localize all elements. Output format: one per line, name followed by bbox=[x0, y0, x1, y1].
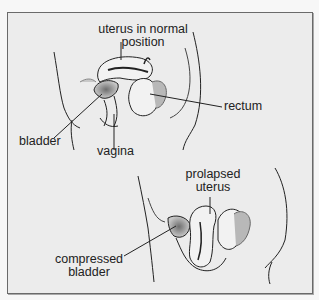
label-rectum: rectum bbox=[224, 100, 262, 113]
label-prolapsed-uterus: prolapsed uterus bbox=[180, 168, 246, 194]
label-compressed-bladder: compressed bladder bbox=[54, 253, 124, 279]
label-uterus-normal: uterus in normal position bbox=[83, 23, 203, 49]
label-bladder: bladder bbox=[19, 135, 61, 148]
label-vagina: vagina bbox=[97, 145, 134, 158]
normal-anatomy-panel bbox=[54, 32, 222, 150]
